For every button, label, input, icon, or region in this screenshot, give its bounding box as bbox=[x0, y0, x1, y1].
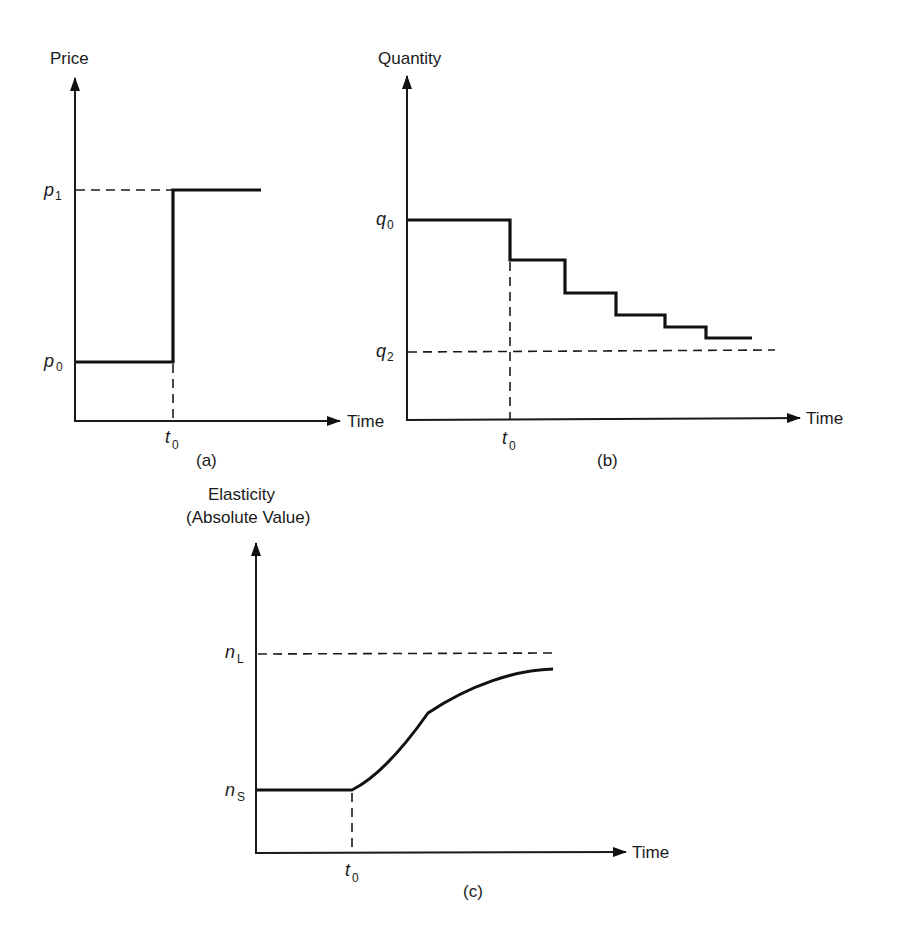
panel-b-q2-tick-label: q 2 bbox=[376, 341, 394, 364]
panel-c-y-axis-label-line1: Elasticity bbox=[208, 485, 276, 504]
panel-c-caption: (c) bbox=[463, 882, 483, 901]
panel-c-nS-tick-label: n S bbox=[225, 780, 245, 804]
svg-text:0: 0 bbox=[509, 439, 516, 453]
svg-text:1: 1 bbox=[55, 189, 62, 203]
figure-canvas: Price Time p 1 p 0 t 0 (a) Quantity Time… bbox=[0, 0, 898, 941]
svg-text:2: 2 bbox=[387, 350, 394, 364]
panel-b: Quantity Time q 0 q 2 t 0 (b) bbox=[376, 49, 843, 470]
panel-a-price-curve bbox=[76, 190, 261, 362]
panel-a-y-axis-label: Price bbox=[50, 49, 89, 68]
svg-text:S: S bbox=[237, 790, 245, 804]
svg-text:n: n bbox=[225, 642, 235, 662]
panel-c-t0-tick-label: t 0 bbox=[345, 860, 359, 885]
panel-a: Price Time p 1 p 0 t 0 (a) bbox=[43, 49, 384, 470]
svg-text:p: p bbox=[43, 351, 54, 371]
panel-a-p1-tick-label: p 1 bbox=[43, 180, 62, 203]
panel-c-x-axis-label: Time bbox=[632, 843, 669, 862]
svg-text:L: L bbox=[237, 652, 244, 666]
panel-b-x-axis-arrow-icon bbox=[406, 418, 800, 420]
svg-text:0: 0 bbox=[352, 871, 359, 885]
panel-b-quantity-step-curve bbox=[408, 220, 752, 338]
svg-text:0: 0 bbox=[56, 360, 63, 374]
svg-text:n: n bbox=[225, 780, 235, 800]
panel-b-q2-dashed-line bbox=[408, 350, 775, 352]
panel-c-y-axis-label-line2: (Absolute Value) bbox=[186, 508, 310, 527]
panel-b-caption: (b) bbox=[597, 451, 618, 470]
svg-text:t: t bbox=[165, 427, 171, 447]
panel-b-q0-tick-label: q 0 bbox=[376, 209, 394, 232]
svg-text:q: q bbox=[376, 341, 386, 361]
panel-b-t0-tick-label: t 0 bbox=[502, 428, 516, 453]
panel-b-y-axis-label: Quantity bbox=[378, 49, 442, 68]
panel-c-x-axis-arrow-icon bbox=[255, 852, 626, 853]
panel-c-elasticity-curve bbox=[257, 669, 553, 790]
panel-c: Elasticity (Absolute Value) Time n L n S… bbox=[186, 485, 669, 901]
svg-text:0: 0 bbox=[172, 438, 179, 452]
svg-text:p: p bbox=[43, 180, 54, 200]
panel-a-x-axis-label: Time bbox=[347, 412, 384, 431]
svg-text:t: t bbox=[502, 428, 508, 448]
svg-text:q: q bbox=[376, 209, 386, 229]
panel-a-p0-tick-label: p 0 bbox=[43, 351, 63, 374]
panel-b-x-axis-label: Time bbox=[806, 409, 843, 428]
panel-c-nL-dashed-line bbox=[258, 653, 555, 654]
panel-c-nL-tick-label: n L bbox=[225, 642, 244, 666]
panel-a-caption: (a) bbox=[196, 451, 217, 470]
svg-text:0: 0 bbox=[387, 218, 394, 232]
svg-text:t: t bbox=[345, 860, 351, 880]
panel-a-t0-tick-label: t 0 bbox=[165, 427, 179, 452]
